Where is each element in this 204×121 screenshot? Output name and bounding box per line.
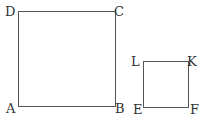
- vertex-label-d: D: [5, 4, 15, 19]
- geometry-figure: D C A B L K E F: [0, 0, 204, 121]
- vertex-label-f: F: [190, 102, 199, 117]
- vertex-label-e: E: [133, 102, 143, 117]
- vertex-label-l: L: [131, 54, 140, 69]
- vertex-label-c: C: [114, 4, 124, 19]
- vertex-label-a: A: [5, 101, 16, 116]
- square-efkl: [144, 62, 189, 108]
- vertex-label-b: B: [115, 101, 125, 116]
- square-abcd: [19, 12, 116, 107]
- vertex-label-k: K: [187, 54, 197, 69]
